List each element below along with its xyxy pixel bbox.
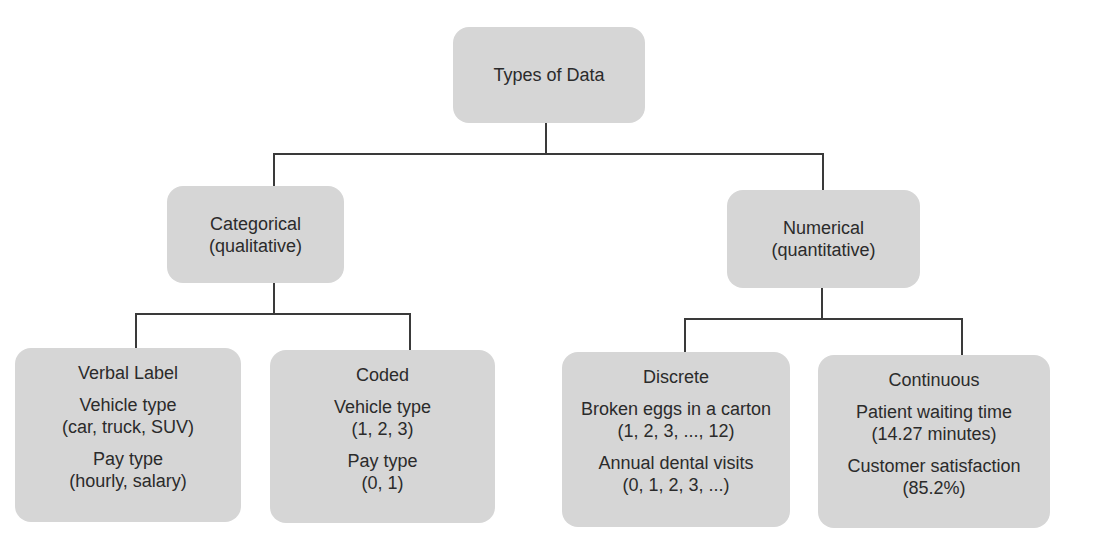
connector-root-down bbox=[545, 123, 547, 155]
connector-categorical-down bbox=[273, 283, 275, 315]
root-label: Types of Data bbox=[493, 64, 604, 86]
coded-example-1: Vehicle type (1, 2, 3) bbox=[334, 396, 431, 440]
verbal-example-2: Pay type (hourly, salary) bbox=[69, 448, 187, 492]
continuous-example-1: Patient waiting time (14.27 minutes) bbox=[856, 401, 1012, 445]
numerical-label: Numerical bbox=[783, 217, 864, 239]
categorical-sublabel: (qualitative) bbox=[209, 235, 302, 257]
connector-categorical-horizontal bbox=[135, 313, 411, 315]
connector-level1-horizontal bbox=[273, 153, 824, 155]
connector-numerical-horizontal bbox=[684, 318, 963, 320]
connector-to-discrete bbox=[684, 318, 686, 352]
verbal-example-1: Vehicle type (car, truck, SUV) bbox=[62, 394, 194, 438]
discrete-title: Discrete bbox=[643, 366, 709, 388]
connector-to-categorical bbox=[273, 153, 275, 186]
connector-to-coded bbox=[409, 313, 411, 350]
connector-to-numerical bbox=[822, 153, 824, 190]
connector-numerical-down bbox=[821, 288, 823, 319]
numerical-sublabel: (quantitative) bbox=[771, 239, 875, 261]
coded-example-2: Pay type (0, 1) bbox=[347, 450, 417, 494]
node-verbal-label: Verbal Label Vehicle type (car, truck, S… bbox=[15, 348, 241, 522]
node-continuous: Continuous Patient waiting time (14.27 m… bbox=[818, 355, 1050, 528]
coded-title: Coded bbox=[356, 364, 409, 386]
verbal-label-title: Verbal Label bbox=[78, 362, 178, 384]
node-numerical: Numerical (quantitative) bbox=[727, 190, 920, 288]
root-node-types-of-data: Types of Data bbox=[453, 27, 645, 123]
node-discrete: Discrete Broken eggs in a carton (1, 2, … bbox=[562, 352, 790, 527]
categorical-label: Categorical bbox=[210, 213, 301, 235]
continuous-example-2: Customer satisfaction (85.2%) bbox=[847, 455, 1020, 499]
connector-to-continuous bbox=[961, 318, 963, 355]
continuous-title: Continuous bbox=[888, 369, 979, 391]
connector-to-verbal-label bbox=[135, 313, 137, 348]
node-coded: Coded Vehicle type (1, 2, 3) Pay type (0… bbox=[270, 350, 495, 523]
discrete-example-1: Broken eggs in a carton (1, 2, 3, ..., 1… bbox=[581, 398, 771, 442]
discrete-example-2: Annual dental visits (0, 1, 2, 3, ...) bbox=[598, 452, 753, 496]
node-categorical: Categorical (qualitative) bbox=[167, 186, 344, 283]
